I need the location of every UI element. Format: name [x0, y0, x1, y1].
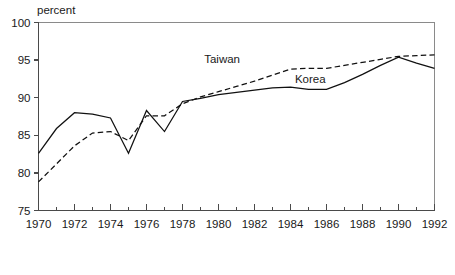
- x-tick-label: 1992: [422, 218, 448, 230]
- x-tick-label: 1970: [26, 218, 52, 230]
- x-tick-label: 1978: [170, 218, 196, 230]
- x-tick-label: 1974: [98, 218, 124, 230]
- series-label-korea: Korea: [295, 73, 326, 85]
- plot-frame-top-right: [39, 23, 435, 211]
- series-line-korea: [39, 57, 435, 153]
- plot-axis-left-bottom: [39, 23, 435, 211]
- y-tick-label: 100: [11, 17, 30, 29]
- series-annotations: KoreaTaiwan: [204, 53, 326, 85]
- series-line-taiwan: [39, 55, 435, 182]
- y-axis-unit-label: percent: [37, 4, 76, 16]
- series-label-taiwan: Taiwan: [204, 53, 240, 65]
- y-axis-ticks: 7580859095100: [11, 17, 38, 217]
- chart-container: percent 7580859095100 197019721974197619…: [0, 0, 455, 275]
- x-axis-ticks: 1970197219741976197819801982198419861988…: [26, 204, 448, 230]
- y-tick-label: 85: [18, 129, 31, 141]
- x-tick-label: 1986: [314, 218, 340, 230]
- y-tick-label: 80: [18, 167, 31, 179]
- x-tick-label: 1972: [62, 218, 88, 230]
- plot-frame: [39, 23, 435, 211]
- x-tick-label: 1984: [278, 218, 304, 230]
- x-tick-label: 1976: [134, 218, 160, 230]
- y-tick-label: 95: [18, 54, 31, 66]
- x-tick-label: 1980: [206, 218, 232, 230]
- line-chart-figure: percent 7580859095100 197019721974197619…: [0, 0, 455, 275]
- x-tick-label: 1988: [350, 218, 376, 230]
- y-tick-label: 90: [18, 92, 31, 104]
- data-series-group: [39, 55, 435, 182]
- y-tick-label: 75: [18, 205, 31, 217]
- x-tick-label: 1982: [242, 218, 268, 230]
- x-tick-label: 1990: [386, 218, 412, 230]
